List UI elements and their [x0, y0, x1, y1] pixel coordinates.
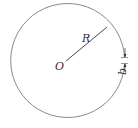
- ring-arc: [11, 4, 125, 118]
- center-label: O: [55, 60, 64, 73]
- radius-label: R: [81, 32, 90, 45]
- gap-label: b: [116, 68, 129, 75]
- split-ring-diagram: O R b: [0, 0, 138, 128]
